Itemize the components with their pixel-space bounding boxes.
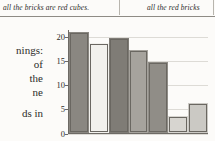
y-axis-tick-label: 10	[57, 81, 66, 90]
bar	[109, 38, 129, 133]
plot-area	[68, 30, 208, 134]
header-horizontal-rule	[0, 16, 215, 17]
y-axis-tick	[65, 109, 68, 110]
bar	[188, 103, 208, 133]
bar	[148, 62, 168, 133]
bar-outline	[90, 44, 108, 132]
header-right-fragment: all the red bricks	[147, 3, 200, 12]
body-text-column: nings: of the ne ds in	[0, 20, 46, 141]
y-axis-tick	[65, 85, 68, 86]
bar-series	[69, 30, 208, 133]
bar	[129, 50, 149, 133]
header-divider-right	[213, 0, 214, 15]
header-left-fragment: all the bricks are red cubes.	[3, 3, 89, 12]
bar	[168, 116, 188, 133]
header-divider-left	[119, 0, 120, 15]
bar-outline	[149, 63, 167, 132]
bar-outline	[70, 33, 88, 132]
body-text-line: the	[30, 72, 43, 84]
y-axis-tick	[65, 37, 68, 38]
bar-outline	[169, 117, 187, 132]
y-axis-tick	[65, 134, 68, 135]
body-text-line: ne	[33, 86, 43, 98]
scanned-page: all the bricks are red cubes. all the re…	[0, 0, 215, 141]
bar-outline	[110, 39, 128, 132]
bar-outline	[189, 104, 207, 132]
x-axis-line	[68, 133, 208, 134]
bar	[69, 32, 89, 133]
body-text-line: of	[34, 58, 43, 70]
y-axis-tick-label: 15	[57, 57, 66, 66]
body-text-line: ds in	[22, 107, 43, 119]
y-axis-tick-label: 20	[57, 33, 66, 42]
running-header: all the bricks are red cubes. all the re…	[0, 0, 215, 16]
bar-chart: 05101520	[46, 22, 215, 141]
y-axis-tick	[65, 61, 68, 62]
body-text-line: nings:	[16, 44, 43, 56]
bar	[89, 43, 109, 133]
y-axis-labels: 05101520	[46, 30, 65, 134]
bar-outline	[130, 51, 148, 132]
